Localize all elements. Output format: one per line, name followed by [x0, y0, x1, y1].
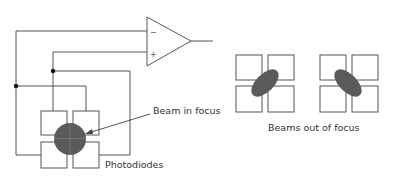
photodiode-quad-in-focus — [41, 111, 99, 168]
photodiode-quad-out-of-focus-1 — [236, 55, 294, 112]
junction-dot — [51, 69, 55, 73]
focus-detection-diagram: − + Beam in focus Photodiodes — [0, 0, 395, 181]
photodiode-quad-out-of-focus-2 — [320, 55, 378, 112]
beams-out-of-focus-label: Beams out of focus — [268, 122, 360, 133]
inverting-input-sign: − — [150, 28, 157, 37]
beam-in-focus-label: Beam in focus — [153, 105, 221, 116]
noninverting-input-sign: + — [150, 50, 157, 59]
junction-dot — [14, 84, 18, 88]
noninverting-input-wire — [53, 52, 147, 111]
top-right-diode-wire — [16, 86, 86, 111]
op-amp: − + — [147, 17, 213, 66]
photodiodes-label: Photodiodes — [105, 159, 163, 170]
